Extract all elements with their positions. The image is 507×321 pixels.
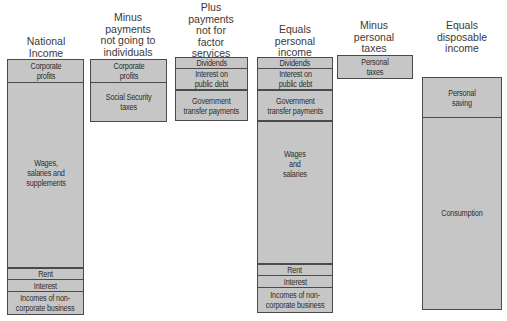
segment-interest-on-public-debt: Interest on public debt (175, 68, 248, 90)
segment-label: Dividends (280, 58, 311, 68)
column-plus-payments-not-for-factor-services: Dividends Interest on public debt Govern… (175, 57, 248, 122)
header-minus-personal-taxes: Minus personal taxes (335, 20, 413, 55)
segment-label: Personal taxes (361, 57, 388, 77)
segment-label: Consumption (441, 208, 482, 218)
segment-label: Corporate profits (113, 61, 144, 81)
segment-label: Wages and salaries (283, 149, 307, 179)
header-equals-disposable-income: Equals disposable income (420, 20, 504, 55)
segment-label: Interest on public debt (195, 69, 228, 89)
segment-label: Social Security taxes (106, 92, 152, 112)
segment-wages-salaries-supplements: Wages, salaries and supplements (7, 82, 84, 268)
segment-personal-taxes: Personal taxes (337, 55, 413, 79)
column-national-income: Corporate profits Wages, salaries and su… (7, 59, 84, 315)
segment-label: Rent (38, 269, 53, 279)
segment-label: Interest (283, 277, 306, 287)
segment-label: Rent (288, 265, 303, 275)
header-national-income: National Income (8, 36, 84, 59)
segment-label: Incomes of non- corporate business (266, 290, 325, 310)
segment-incomes-noncorporate-business: Incomes of non- corporate business (257, 287, 333, 313)
header-plus-payments-not-for-factor-services: Plus payments not for factor services (170, 2, 252, 60)
segment-social-security-taxes: Social Security taxes (90, 82, 167, 122)
segment-corporate-profits: Corporate profits (7, 59, 84, 83)
segment-personal-saving: Personal saving (422, 77, 502, 118)
column-minus-personal-taxes: Personal taxes (337, 55, 413, 79)
segment-government-transfer-payments: Government transfer payments (175, 90, 248, 121)
header-equals-personal-income: Equals personal income (255, 24, 335, 59)
column-equals-personal-income: Dividends Interest on public debt Govern… (257, 57, 333, 314)
segment-label: Interest (34, 281, 57, 291)
segment-label: Incomes of non- corporate business (16, 293, 75, 313)
segment-label: Government transfer payments (267, 96, 323, 116)
column-equals-disposable-income: Personal saving Consumption (422, 77, 502, 311)
segment-corporate-profits: Corporate profits (90, 59, 167, 83)
segment-label: Corporate profits (30, 61, 61, 81)
segment-government-transfer-payments: Government transfer payments (257, 90, 333, 121)
segment-label: Interest on public debt (278, 69, 311, 89)
segment-label: Government transfer payments (184, 96, 240, 116)
segment-wages-and-salaries: Wages and salaries (257, 121, 333, 264)
segment-label: Personal saving (448, 88, 475, 108)
segment-label: Dividends (196, 58, 227, 68)
segment-consumption: Consumption (422, 117, 502, 310)
segment-label: Wages, salaries and supplements (26, 158, 66, 188)
segment-incomes-noncorporate-business: Incomes of non- corporate business (7, 291, 84, 315)
column-minus-payments-not-going-to-individuals: Corporate profits Social Security taxes (90, 59, 167, 123)
header-minus-payments-not-going-to-individuals: Minus payments not going to individuals (86, 12, 170, 58)
segment-interest-on-public-debt: Interest on public debt (257, 68, 333, 90)
